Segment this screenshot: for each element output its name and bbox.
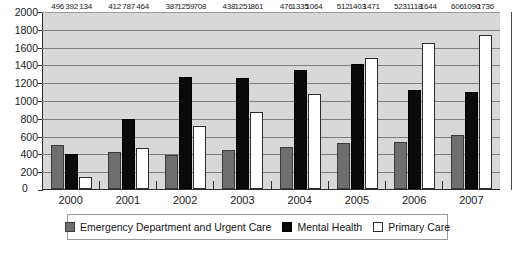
bar-value-label: 134 [79, 3, 92, 11]
bar[interactable]: 708 [193, 126, 206, 189]
x-tick-label: 2001 [99, 192, 156, 208]
legend-item[interactable]: Emergency Department and Urgent Care [65, 221, 271, 233]
x-tick-label: 2007 [443, 192, 500, 208]
y-tick-label: 1000 [2, 96, 38, 107]
bar[interactable]: 1090 [465, 92, 478, 189]
bar-slot: 523 [394, 12, 407, 189]
legend-label: Emergency Department and Urgent Care [80, 221, 271, 233]
bar-value-label: 392 [65, 3, 78, 11]
bar-slot: 464 [136, 12, 149, 189]
bar-slot: 787 [122, 12, 135, 189]
bar[interactable]: 412 [108, 152, 121, 189]
y-tick-label: 1600 [2, 42, 38, 53]
bar-group: 3871259708 [157, 12, 214, 189]
bar-slot: 861 [250, 12, 263, 189]
bar-value-label: 512 [337, 3, 350, 11]
bar[interactable]: 134 [79, 177, 92, 189]
bar-slot: 1736 [479, 12, 492, 189]
bar-slot: 1090 [465, 12, 478, 189]
plot-area-wrapper: 4963921344127874643871259708438125186147… [42, 12, 500, 190]
bar[interactable]: 787 [122, 119, 135, 189]
y-tick-label: 400 [2, 149, 38, 160]
bar-value-label: 606 [451, 3, 464, 11]
y-tick-label: 1400 [2, 60, 38, 71]
y-tick-label: 2000 [2, 7, 38, 18]
bar-slot: 512 [337, 12, 350, 189]
y-axis: 200400600800100012001400160018002000 [0, 12, 38, 190]
bar-slot: 1335 [294, 12, 307, 189]
bar[interactable]: 1471 [365, 58, 378, 189]
legend-label: Primary Care [388, 221, 450, 233]
bar-slot: 1644 [422, 12, 435, 189]
bar-slot: 134 [79, 12, 92, 189]
bar-value-label: 861 [251, 3, 264, 11]
bar-value-label: 476 [280, 3, 293, 11]
bar-value-label: 1736 [477, 3, 494, 11]
y-tick-label: 200 [2, 167, 38, 178]
bar[interactable]: 1259 [179, 77, 192, 189]
bar-group: 412787464 [100, 12, 157, 189]
x-tick-label: 2004 [271, 192, 328, 208]
bar-slot: 1403 [351, 12, 364, 189]
x-tick-label: 2006 [386, 192, 443, 208]
bar-value-label: 1259 [177, 3, 194, 11]
y-tick-label: 800 [2, 114, 38, 125]
y-tick-label: 1800 [2, 25, 38, 36]
bar-group: 51214031471 [329, 12, 386, 189]
bar-group: 496392134 [43, 12, 100, 189]
bar-chart: 200400600800100012001400160018002000 496… [0, 0, 515, 253]
bar[interactable]: 1335 [294, 70, 307, 189]
bar-group: 4381251861 [214, 12, 271, 189]
bar-value-label: 1251 [234, 3, 251, 11]
y-axis-zero-label: 0 [22, 183, 28, 194]
bar[interactable]: 606 [451, 135, 464, 189]
bar[interactable]: 438 [222, 150, 235, 189]
bar-value-label: 412 [108, 3, 121, 11]
bar-slot: 1471 [365, 12, 378, 189]
x-axis-line [42, 189, 500, 190]
bar-value-label: 387 [165, 3, 178, 11]
x-tick-label: 2002 [157, 192, 214, 208]
x-tick-label: 2000 [42, 192, 99, 208]
bar-value-label: 708 [193, 3, 206, 11]
bar-slot: 476 [280, 12, 293, 189]
bar-value-label: 464 [136, 3, 149, 11]
legend-item[interactable]: Mental Health [282, 221, 362, 233]
bar-value-label: 787 [122, 3, 135, 11]
bar-value-label: 523 [394, 3, 407, 11]
bar-group: 47613351064 [272, 12, 329, 189]
bar[interactable]: 523 [394, 142, 407, 189]
bar-group: 52311181644 [386, 12, 443, 189]
bar-group: 60610901736 [443, 12, 500, 189]
bar[interactable]: 1644 [422, 43, 435, 189]
legend-item[interactable]: Primary Care [373, 221, 450, 233]
bar[interactable]: 512 [337, 143, 350, 189]
bar-slot: 496 [51, 12, 64, 189]
bar[interactable]: 476 [280, 147, 293, 189]
bar[interactable]: 464 [136, 148, 149, 189]
bar-slot: 412 [108, 12, 121, 189]
bar[interactable]: 1251 [236, 78, 249, 189]
legend-swatch-icon [65, 222, 75, 232]
y-tick-mark [38, 190, 43, 191]
bar[interactable]: 392 [65, 154, 78, 189]
legend-swatch-icon [282, 222, 292, 232]
bar-value-label: 496 [51, 3, 64, 11]
legend-swatch-icon [373, 222, 383, 232]
x-tick-label: 2005 [328, 192, 385, 208]
bar[interactable]: 496 [51, 145, 64, 189]
bar-slot: 392 [65, 12, 78, 189]
bar[interactable]: 1118 [408, 90, 421, 190]
y-tick-label: 600 [2, 131, 38, 142]
right-frame-line [511, 12, 512, 190]
bar-slot: 387 [165, 12, 178, 189]
bar[interactable]: 1064 [308, 94, 321, 189]
bar[interactable]: 861 [250, 112, 263, 189]
bar-groups: 4963921344127874643871259708438125186147… [43, 12, 500, 189]
bar[interactable]: 1403 [351, 64, 364, 189]
bar-slot: 438 [222, 12, 235, 189]
bar[interactable]: 387 [165, 155, 178, 189]
bar[interactable]: 1736 [479, 35, 492, 190]
bar-slot: 1064 [308, 12, 321, 189]
bar-slot: 606 [451, 12, 464, 189]
